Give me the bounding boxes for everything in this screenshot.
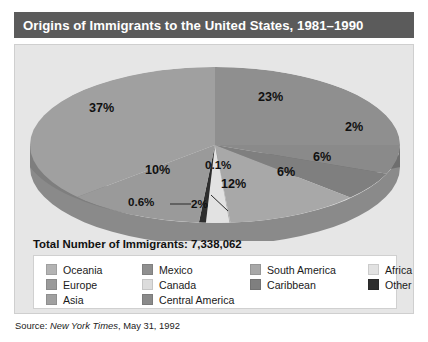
legend-swatch-other: [368, 279, 379, 290]
legend-label-mexico: Mexico: [159, 264, 193, 276]
legend-label-central-america: Central America: [159, 294, 234, 306]
page-title: Origins of Immigrants to the United Stat…: [23, 18, 364, 33]
legend-swatch-canada: [142, 279, 153, 290]
figure-title-bar: Origins of Immigrants to the United Stat…: [14, 12, 414, 38]
pie-label-other: 0.6%: [128, 195, 154, 208]
pie-slice-mexico: [215, 67, 400, 156]
legend-swatch-central-america: [142, 294, 153, 305]
source-prefix: Source:: [15, 320, 50, 331]
legend-item-mexico[interactable]: Mexico: [142, 262, 250, 277]
pie-label-south-america: 12%: [221, 177, 246, 191]
legend-item-caribbean[interactable]: Caribbean: [250, 277, 368, 292]
legend-swatch-oceania: [46, 264, 57, 275]
legend-item-south-america[interactable]: South America: [250, 262, 368, 277]
legend-grid: Oceania Mexico South America Africa Euro…: [46, 262, 396, 307]
legend-label-africa: Africa: [385, 264, 412, 276]
legend-swatch-mexico: [142, 264, 153, 275]
legend-label-caribbean: Caribbean: [267, 279, 316, 291]
legend-item-asia[interactable]: Asia: [46, 292, 142, 307]
pie-label-oceania: 0.1%: [205, 158, 231, 171]
legend-swatch-south-america: [250, 264, 261, 275]
source-publication: New York Times: [50, 320, 118, 331]
pie-label-canada: 2%: [345, 120, 363, 134]
chart-panel: 37% 23% 2% 6% 6% 12% 0.1% 2% 0.6% 10% To…: [14, 44, 414, 314]
pie-label-mexico: 23%: [258, 90, 283, 104]
legend-swatch-africa: [368, 264, 379, 275]
pie-chart-svg: [15, 45, 414, 241]
legend-box: Oceania Mexico South America Africa Euro…: [33, 255, 397, 309]
legend-item-africa[interactable]: Africa: [368, 262, 414, 277]
total-immigrants-label: Total Number of Immigrants: 7,338,062: [33, 238, 242, 250]
source-note: Source: New York Times, May 31, 1992: [15, 320, 180, 331]
legend-swatch-europe: [46, 279, 57, 290]
legend-item-other[interactable]: Other: [368, 277, 414, 292]
legend-item-canada[interactable]: Canada: [142, 277, 250, 292]
pie-chart: 37% 23% 2% 6% 6% 12% 0.1% 2% 0.6% 10%: [15, 45, 414, 241]
legend-item-central-america[interactable]: Central America: [142, 292, 250, 307]
legend-swatch-asia: [46, 294, 57, 305]
source-suffix: , May 31, 1992: [118, 320, 180, 331]
legend-label-europe: Europe: [63, 279, 97, 291]
pie-label-europe: 10%: [145, 163, 170, 177]
legend-label-canada: Canada: [159, 279, 196, 291]
pie-label-africa: 2%: [191, 197, 208, 210]
legend-item-europe[interactable]: Europe: [46, 277, 142, 292]
figure-container: Origins of Immigrants to the United Stat…: [0, 0, 428, 342]
legend-label-asia: Asia: [63, 294, 84, 306]
pie-label-asia: 37%: [89, 101, 114, 115]
legend-label-other: Other: [385, 279, 412, 291]
legend-swatch-caribbean: [250, 279, 261, 290]
legend-label-oceania: Oceania: [63, 264, 102, 276]
pie-label-central-america: 6%: [277, 165, 295, 179]
legend-label-south-america: South America: [267, 264, 336, 276]
legend-item-oceania[interactable]: Oceania: [46, 262, 142, 277]
pie-label-caribbean: 6%: [313, 150, 331, 164]
